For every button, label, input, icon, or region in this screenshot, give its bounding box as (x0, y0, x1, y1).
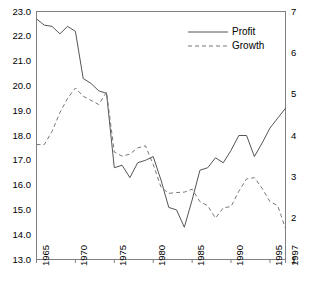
x-axis-tick-1997: 1997 (290, 245, 300, 266)
left-axis-tick-22.0: 22.0 (0, 31, 31, 41)
legend-label-growth: Growth (232, 41, 264, 51)
series-line-growth (37, 88, 286, 229)
right-axis-tick-7: 7 (291, 7, 296, 17)
x-axis-tick-1975: 1975 (118, 245, 128, 266)
left-axis-tick-17.0: 17.0 (0, 155, 31, 165)
x-axis-tick-1995: 1995 (274, 245, 284, 266)
x-axis-tick-1990: 1990 (235, 245, 245, 266)
x-axis-tick-1985: 1985 (196, 245, 206, 266)
right-axis-tick-2: 2 (291, 213, 296, 223)
right-axis-tick-6: 6 (291, 48, 296, 58)
legend-sample-lines (188, 32, 228, 46)
left-axis-tick-14.0: 14.0 (0, 230, 31, 240)
left-axis-tick-13.0: 13.0 (0, 255, 31, 265)
legend-label-profit: Profit (232, 27, 255, 37)
right-axis-tick-5: 5 (291, 89, 296, 99)
chart-container: 13.014.015.016.017.018.019.020.021.022.0… (0, 0, 315, 298)
left-axis-tick-23.0: 23.0 (0, 7, 31, 17)
x-axis-tick-1965: 1965 (41, 245, 51, 266)
right-axis-tick-4: 4 (291, 131, 296, 141)
left-axis-tick-15.0: 15.0 (0, 205, 31, 215)
x-axis-tick-1970: 1970 (79, 245, 89, 266)
left-axis-tick-19.0: 19.0 (0, 106, 31, 116)
left-axis-tick-16.0: 16.0 (0, 180, 31, 190)
left-axis-tick-20.0: 20.0 (0, 81, 31, 91)
left-axis-tick-18.0: 18.0 (0, 131, 31, 141)
left-axis-tick-21.0: 21.0 (0, 56, 31, 66)
x-axis-tick-1980: 1980 (157, 245, 167, 266)
right-axis-tick-3: 3 (291, 172, 296, 182)
